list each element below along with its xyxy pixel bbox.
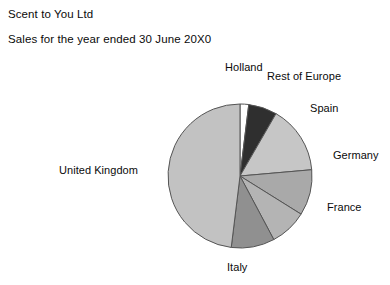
pie-label-france: France	[327, 201, 362, 213]
pie-label-rest-of-europe: Rest of Europe	[267, 70, 341, 82]
chart-area: Holland Rest of Europe Spain Germany Fra…	[0, 55, 390, 285]
pie-label-spain: Spain	[310, 102, 338, 114]
pie-label-italy: Italy	[227, 261, 247, 273]
pie-label-germany: Germany	[333, 149, 379, 161]
company-title: Scent to You Ltd	[8, 8, 93, 20]
chart-subtitle: Sales for the year ended 30 June 20X0	[8, 33, 211, 45]
pie-label-holland: Holland	[225, 61, 263, 73]
pie-chart-page: Scent to You Ltd Sales for the year ende…	[0, 0, 390, 285]
pie-label-united-kingdom: United Kingdom	[59, 164, 138, 176]
pie-slice-united-kingdom	[168, 104, 240, 247]
pie-slices-group	[168, 104, 312, 248]
